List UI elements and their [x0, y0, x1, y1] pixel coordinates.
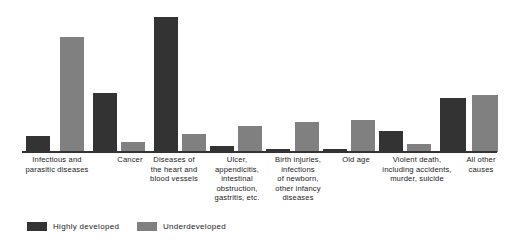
bar-allother-highly-developed	[440, 98, 466, 152]
bar-cancer-highly-developed	[93, 93, 117, 152]
category-label-line: the heart and	[140, 165, 208, 175]
legend-item[interactable]: Underdeveloped	[137, 222, 226, 231]
legend-item[interactable]: Highly developed	[27, 222, 119, 231]
chart-legend: Highly developedUnderdeveloped	[0, 222, 513, 244]
category-label-line: All other	[456, 155, 506, 165]
bar-chart: Infectious andparasitic diseasesCancerDi…	[0, 0, 513, 252]
legend-label: Underdeveloped	[163, 222, 226, 231]
category-label: Infectious andparasitic diseases	[12, 155, 102, 174]
category-label-line: including accidents,	[374, 165, 460, 175]
bar-heart-underdeveloped	[182, 134, 206, 152]
category-label-line: Ulcer,	[204, 155, 270, 165]
category-label-line: intestinal	[204, 174, 270, 184]
category-label-line: Birth injuries,	[263, 155, 333, 165]
bar-birth-underdeveloped	[295, 122, 319, 152]
category-label-line: murder, suicide	[374, 174, 460, 184]
legend-label: Highly developed	[53, 222, 119, 231]
bar-violent-highly-developed	[379, 131, 403, 152]
category-label-line: infections	[263, 165, 333, 175]
category-label: Diseases ofthe heart andblood vessels	[140, 155, 208, 184]
bar-heart-highly-developed	[154, 17, 178, 152]
category-axis: Infectious andparasitic diseasesCancerDi…	[0, 155, 513, 217]
category-label-line: obstruction,	[204, 184, 270, 194]
plot-area	[0, 0, 513, 155]
legend-swatch-icon	[27, 222, 47, 231]
category-label-line: Diseases of	[140, 155, 208, 165]
category-label-line: of newborn,	[263, 174, 333, 184]
bar-infectious-underdeveloped	[60, 37, 84, 152]
category-label-line: gastritis, etc.	[204, 193, 270, 203]
category-label: Birth injuries,infectionsof newborn,othe…	[263, 155, 333, 203]
axis-baseline	[22, 151, 497, 153]
category-label-line: Violent death,	[374, 155, 460, 165]
category-label-line: appendicitis,	[204, 165, 270, 175]
legend-swatch-icon	[137, 222, 157, 231]
category-label: Violent death,including accidents,murder…	[374, 155, 460, 184]
category-label: Ulcer,appendicitis,intestinalobstruction…	[204, 155, 270, 203]
bar-infectious-highly-developed	[26, 136, 50, 152]
category-label-line: other infancy	[263, 184, 333, 194]
category-label-line: diseases	[263, 193, 333, 203]
bar-allother-underdeveloped	[472, 95, 498, 152]
category-label: All othercauses	[456, 155, 506, 174]
bar-oldage-underdeveloped	[351, 120, 375, 152]
category-label-line: blood vessels	[140, 174, 208, 184]
category-label-line: Infectious and	[12, 155, 102, 165]
bar-ulcer-underdeveloped	[238, 126, 262, 152]
category-label-line: causes	[456, 165, 506, 175]
category-label-line: parasitic diseases	[12, 165, 102, 175]
